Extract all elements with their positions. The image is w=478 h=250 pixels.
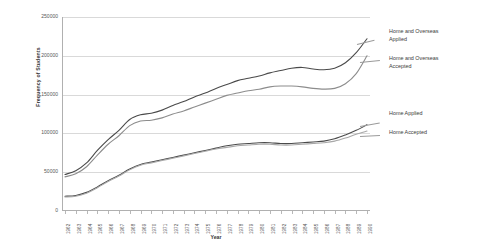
annotation-home-overseas-accepted: Home and Overseas Accepted	[389, 55, 438, 71]
x-axis-tick-labels: 1962196319641965196619671968196919701971…	[62, 214, 370, 236]
x-label-1984: 1984	[304, 224, 309, 234]
series-line-1	[65, 56, 367, 177]
annotation-home-applied: Home Applied	[389, 110, 423, 118]
x-label-1985: 1985	[315, 224, 320, 234]
annotation-home-overseas-applied: Home and Overseas Applied	[389, 28, 438, 44]
line-chart: 250000 200000 150000 100000 50000 0 Freq…	[0, 0, 478, 250]
x-label-1969: 1969	[143, 224, 148, 234]
x-label-1973: 1973	[186, 224, 191, 234]
x-label-1979: 1979	[250, 224, 255, 234]
x-label-1964: 1964	[89, 224, 94, 234]
x-label-1980: 1980	[261, 224, 266, 234]
x-label-1962: 1962	[67, 224, 72, 234]
x-label-1977: 1977	[229, 224, 234, 234]
x-label-1978: 1978	[240, 224, 245, 234]
x-label-1965: 1965	[99, 224, 104, 234]
x-label-1976: 1976	[218, 224, 223, 234]
x-label-1986: 1986	[326, 224, 331, 234]
x-label-1988: 1988	[347, 224, 352, 234]
x-label-1971: 1971	[164, 224, 169, 234]
y-axis-title: Frequency of Students	[35, 17, 41, 137]
y-tick-0: 0	[14, 208, 58, 213]
x-label-1981: 1981	[272, 224, 277, 234]
x-label-1963: 1963	[78, 224, 83, 234]
x-label-1968: 1968	[132, 224, 137, 234]
x-label-1970: 1970	[153, 224, 158, 234]
x-label-1966: 1966	[110, 224, 115, 234]
x-label-1987: 1987	[337, 224, 342, 234]
x-label-1990: 1990	[369, 224, 374, 234]
plot-area	[62, 17, 370, 211]
x-label-1974: 1974	[196, 224, 201, 234]
x-label-1989: 1989	[358, 224, 363, 234]
x-label-1983: 1983	[294, 224, 299, 234]
x-label-1967: 1967	[121, 224, 126, 234]
x-label-1972: 1972	[175, 224, 180, 234]
y-tick-50000: 50000	[14, 169, 58, 174]
x-label-1982: 1982	[283, 224, 288, 234]
series-line-2	[65, 125, 367, 196]
annotation-home-accepted: Home Accepted	[389, 129, 427, 137]
series-lines	[62, 17, 370, 211]
x-axis-title: Year	[62, 234, 370, 240]
x-label-1975: 1975	[207, 224, 212, 234]
series-line-0	[65, 39, 367, 175]
y-axis-tick-labels: 250000 200000 150000 100000 50000 0	[0, 0, 58, 250]
